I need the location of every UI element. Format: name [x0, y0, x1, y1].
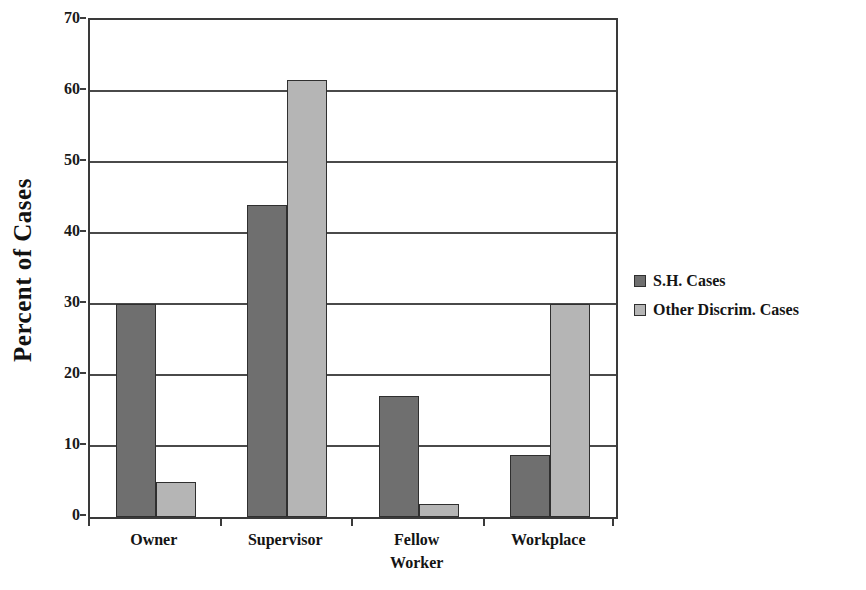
bar[interactable] — [287, 80, 327, 517]
bar[interactable] — [510, 455, 550, 517]
x-axis-category-label-line: Owner — [88, 528, 220, 551]
x-axis-category-label: Workplace — [483, 528, 615, 590]
y-axis-tick-label: 40 — [64, 222, 80, 240]
bar-chart-figure: Percent of Cases 010203040506070 OwnerSu… — [0, 0, 866, 590]
y-axis-tick-label: 50 — [64, 151, 80, 169]
dark-gray-swatch-icon — [634, 275, 646, 287]
bar[interactable] — [116, 304, 156, 517]
x-axis-category-label: FellowWorker — [351, 528, 483, 590]
x-axis-category-label-line: Supervisor — [220, 528, 352, 551]
bar-group — [90, 20, 222, 517]
bar-group — [353, 20, 485, 517]
x-axis-tick-mark — [88, 517, 90, 526]
bar[interactable] — [419, 504, 459, 517]
y-axis-tick-label: 30 — [64, 293, 80, 311]
y-axis-title-container: Percent of Cases — [0, 0, 46, 540]
bar-group — [222, 20, 354, 517]
bar[interactable] — [247, 205, 287, 517]
y-axis-tick-label: 70 — [64, 9, 80, 27]
y-axis-tick-label: 60 — [64, 80, 80, 98]
x-axis-category-label-line: Worker — [351, 551, 483, 574]
chart-legend: S.H. CasesOther Discrim. Cases — [634, 272, 862, 330]
y-axis-tick-label: 10 — [64, 435, 80, 453]
light-gray-swatch-icon — [634, 304, 646, 316]
bar[interactable] — [550, 304, 590, 517]
x-axis-tick-mark — [220, 517, 222, 526]
x-axis-tick-mark — [483, 517, 485, 526]
x-axis-category-label-line: Workplace — [483, 528, 615, 551]
y-axis-tick-mark — [80, 17, 86, 19]
bar[interactable] — [156, 482, 196, 518]
x-axis-category-label: Owner — [88, 528, 220, 590]
y-axis-tick-labels: 010203040506070 — [46, 0, 86, 540]
y-axis-tick-mark — [80, 88, 86, 90]
y-axis-tick-mark — [80, 301, 86, 303]
plot-area — [88, 18, 618, 519]
legend-item-label: Other Discrim. Cases — [653, 301, 799, 319]
y-axis-tick-label: 0 — [72, 506, 80, 524]
bar-group — [485, 20, 617, 517]
legend-item[interactable]: Other Discrim. Cases — [634, 301, 862, 319]
y-axis-tick-label: 20 — [64, 364, 80, 382]
y-axis-tick-mark — [80, 230, 86, 232]
x-axis-tick-mark — [612, 517, 614, 526]
legend-item[interactable]: S.H. Cases — [634, 272, 862, 290]
x-axis-ticks — [88, 517, 614, 526]
y-axis-tick-mark — [80, 372, 86, 374]
bar[interactable] — [379, 396, 419, 517]
y-axis-tick-mark — [80, 443, 86, 445]
y-axis-title: Percent of Cases — [9, 178, 37, 362]
bar-groups — [90, 20, 616, 517]
y-axis-tick-mark — [80, 514, 86, 516]
x-axis-category-label: Supervisor — [220, 528, 352, 590]
y-axis-tick-mark — [80, 159, 86, 161]
x-axis-tick-mark — [351, 517, 353, 526]
x-axis-category-label-line: Fellow — [351, 528, 483, 551]
x-axis-category-labels: OwnerSupervisorFellowWorkerWorkplace — [88, 528, 614, 590]
legend-item-label: S.H. Cases — [653, 272, 725, 290]
